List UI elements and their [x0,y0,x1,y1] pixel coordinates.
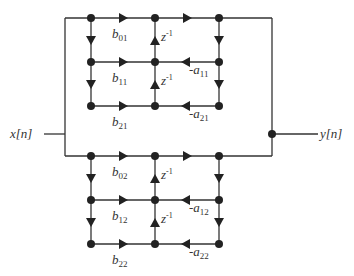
arrow-down-icon [214,80,224,89]
output-label: y[n] [318,126,342,141]
arrow-down-icon [214,218,224,227]
svg-text:b12: b12 [112,208,128,225]
svg-text:z-1: z-1 [160,167,173,182]
arrow-down-icon [86,36,96,45]
svg-text:b21: b21 [112,114,128,131]
svg-text:z-1: z-1 [160,29,173,44]
arrow-up-icon [150,174,160,183]
svg-text:-a22: -a22 [189,244,209,261]
svg-text:b02: b02 [112,164,128,181]
arrow-down-icon [86,80,96,89]
svg-text:z-1: z-1 [160,73,173,88]
arrow-right-icon [119,195,128,205]
svg-text:b01: b01 [112,26,128,43]
svg-text:-a12: -a12 [189,200,209,217]
arrow-right-icon [119,101,128,111]
svg-text:z-1: z-1 [160,211,173,226]
signal-flow-diagram: x[n] y[n] b01 b11 b21 z-1 [0,0,354,276]
arrow-up-icon [150,80,160,89]
arrow-right-icon [119,151,128,161]
section-2: b02 b12 b22 z-1 z-1 -a12 -a22 [65,151,272,269]
arrow-up-icon [150,218,160,227]
arrow-right-icon [119,57,128,67]
section-1: b01 b11 b21 z-1 z-1 -a11 -a21 [65,13,272,131]
arrow-right-icon [119,13,128,23]
arrow-up-icon [150,36,160,45]
arrow-down-icon [86,218,96,227]
output-sum-node [268,130,276,138]
arrow-right-icon [183,151,192,161]
svg-text:-a21: -a21 [189,106,209,123]
arrow-down-icon [214,36,224,45]
svg-text:-a11: -a11 [189,62,209,79]
arrow-right-icon [119,239,128,249]
svg-text:b22: b22 [112,252,128,269]
input-label: x[n] [9,126,32,141]
arrow-right-icon [183,13,192,23]
arrow-down-icon [214,174,224,183]
arrow-down-icon [86,174,96,183]
svg-text:b11: b11 [112,70,127,87]
